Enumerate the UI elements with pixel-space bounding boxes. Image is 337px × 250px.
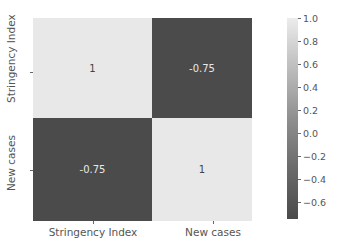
colorbar-tick-label: −0.4 [303,174,326,185]
y-label-stringency-index: Stringency Index [5,33,17,103]
y-tick-0 [30,72,33,73]
colorbar-tick-label: 0.2 [303,105,318,116]
cell-value: 1 [89,63,95,74]
cell-value: -0.75 [189,63,215,74]
colorbar-tick [298,179,301,180]
colorbar-tick-label: 0.6 [303,59,318,70]
x-tick-1 [213,221,214,224]
colorbar-tick-label: 1.0 [303,13,318,24]
colorbar-tick-label: 0.4 [303,82,318,93]
colorbar-tick [298,41,301,42]
cell-r1-c1: 1 [152,118,252,221]
colorbar-tick [298,18,301,19]
colorbar-tick-label: −0.6 [303,197,326,208]
colorbar-tick-label: −0.2 [303,151,326,162]
cell-r0-c0: 1 [33,18,152,118]
x-tick-0 [93,221,94,224]
colorbar-tick-label: 0.0 [303,128,318,139]
colorbar-tick [298,64,301,65]
colorbar-tick-label: 0.8 [303,36,318,47]
cell-value: 1 [199,164,205,175]
colorbar-tick [298,87,301,88]
y-tick-1 [30,170,33,171]
cell-value: -0.75 [80,164,106,175]
cell-r0-c1: -0.75 [152,18,252,118]
cell-r1-c0: -0.75 [33,118,152,221]
colorbar-tick [298,202,301,203]
colorbar-tick [298,110,301,111]
y-label-new-cases: New cases [5,145,17,191]
x-label-new-cases: New cases [185,226,241,238]
colorbar [287,18,298,219]
x-label-stringency-index: Stringency Index [49,226,138,238]
colorbar-tick [298,133,301,134]
colorbar-tick [298,156,301,157]
